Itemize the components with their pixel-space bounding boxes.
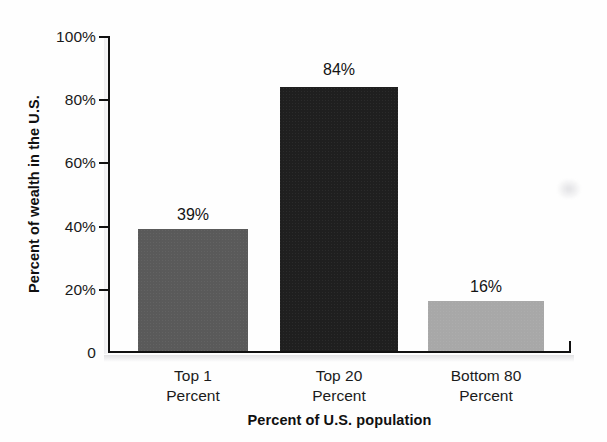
y-axis-label-40: 40% <box>40 219 96 235</box>
x-axis-end-tick <box>569 341 571 352</box>
x-axis-line <box>108 351 571 353</box>
scan-artifact-dotted-line <box>0 8 607 10</box>
scan-artifact-smudge <box>556 178 582 200</box>
y-axis-label-60: 60% <box>40 155 96 171</box>
category-line-2: Percent <box>126 386 260 406</box>
y-axis-label-0: 0 <box>40 345 96 361</box>
bar-value-label-bottom-80: 16% <box>428 279 544 295</box>
x-axis-category-top-20: Top 20 Percent <box>272 366 406 407</box>
category-line-1: Top 1 <box>126 366 260 386</box>
y-axis-tick-100 <box>99 36 108 38</box>
category-line-1: Top 20 <box>272 366 406 386</box>
bar-top-20-percent <box>280 87 398 352</box>
x-axis-category-top-1: Top 1 Percent <box>126 366 260 407</box>
x-axis-title: Percent of U.S. population <box>108 412 571 428</box>
y-axis-tick-60 <box>99 162 108 164</box>
y-axis-label-80: 80% <box>40 92 96 108</box>
y-axis-label-20: 20% <box>40 282 96 298</box>
y-axis-label-100: 100% <box>40 29 96 45</box>
category-line-1: Bottom 80 <box>419 366 553 386</box>
y-axis-tick-80 <box>99 99 108 101</box>
scan-artifact-bottom-shadow <box>104 355 574 362</box>
bar-texture <box>280 87 398 352</box>
x-axis-category-bottom-80: Bottom 80 Percent <box>419 366 553 407</box>
category-line-2: Percent <box>419 386 553 406</box>
y-axis-line <box>108 36 110 353</box>
y-axis-tick-40 <box>99 226 108 228</box>
bar-texture <box>138 229 248 352</box>
bar-value-label-top-1: 39% <box>138 207 248 223</box>
bar-value-label-top-20: 84% <box>280 62 398 78</box>
y-axis-tick-20 <box>99 289 108 291</box>
bar-bottom-80-percent <box>428 301 544 352</box>
bar-chart-figure: Percent of wealth in the U.S. 100% 80% 6… <box>0 0 607 442</box>
category-line-2: Percent <box>272 386 406 406</box>
bar-texture <box>428 301 544 352</box>
bar-top-1-percent <box>138 229 248 352</box>
